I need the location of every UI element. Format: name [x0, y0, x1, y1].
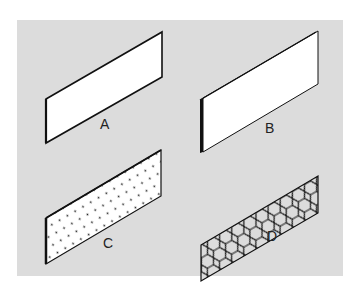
label-a: A — [100, 116, 109, 132]
label-d: D — [267, 228, 277, 244]
panels-diagram — [0, 0, 360, 288]
panel-b — [200, 31, 318, 153]
panel-d — [195, 170, 325, 285]
label-b: B — [265, 120, 274, 136]
label-c: C — [103, 235, 113, 251]
